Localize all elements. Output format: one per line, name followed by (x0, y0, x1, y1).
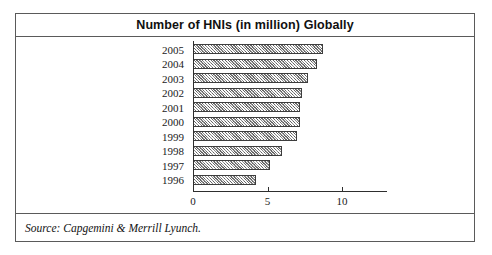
bar-2002 (193, 88, 302, 98)
bar-2005 (193, 44, 323, 54)
source-band: Source: Capgemini & Merrill Lyunch. (16, 213, 474, 241)
x-axis-line (193, 191, 387, 192)
bar-1997 (193, 160, 270, 170)
x-axis-tick-mark (268, 187, 269, 191)
page-title: Number of HNIs (in million) Globally (136, 18, 354, 32)
bar-1998 (193, 146, 282, 156)
x-axis-tick-label: 0 (190, 195, 196, 207)
bar-2001 (193, 102, 300, 112)
bar-1999 (193, 131, 297, 141)
bar-2003 (193, 73, 308, 83)
bar-series-layer (16, 37, 474, 214)
bar-1996 (193, 175, 256, 185)
bar-2004 (193, 59, 317, 69)
x-axis-tick-label: 10 (337, 195, 348, 207)
plot-area: 2005200420032002200120001999199819971996… (16, 37, 474, 214)
chart-figure-frame: Number of HNIs (in million) Globally 200… (15, 13, 475, 242)
x-axis-tick-mark (342, 187, 343, 191)
chart-title-band: Number of HNIs (in million) Globally (16, 14, 474, 37)
source-note: Source: Capgemini & Merrill Lyunch. (16, 222, 201, 234)
y-axis-line (193, 41, 194, 191)
x-axis-tick-label: 5 (265, 195, 271, 207)
bar-2000 (193, 117, 300, 127)
